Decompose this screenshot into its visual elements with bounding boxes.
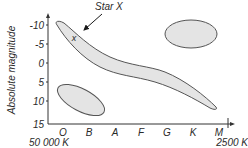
- star-x-marker: x: [71, 33, 77, 43]
- y-axis-title: Absolute magnitude: [6, 25, 17, 115]
- y-tick-label: -5: [35, 39, 44, 50]
- spectral-class-label: A: [111, 127, 119, 138]
- white-dwarfs-region: [53, 78, 109, 122]
- spectral-class-label: B: [86, 127, 93, 138]
- star-x-arrow-icon: [84, 14, 102, 30]
- y-tick-label: 10: [33, 96, 45, 107]
- spectral-class-label: F: [138, 127, 145, 138]
- y-axis-arrow-icon: [46, 13, 50, 18]
- spectral-class-label: K: [190, 127, 198, 138]
- giants-region: [165, 20, 217, 48]
- y-tick-label: 15: [33, 119, 45, 130]
- spectral-class-label: G: [163, 127, 171, 138]
- y-tick-label: -10: [30, 20, 45, 31]
- right-temperature-label: 2500 K: [215, 137, 248, 148]
- y-tick-label: 0: [38, 58, 44, 69]
- star-x-label: Star X: [95, 1, 123, 12]
- hr-diagram: -10 -5 0 5 10 15 Absolute magnitude O B …: [0, 0, 248, 148]
- y-tick-label: 5: [38, 77, 44, 88]
- left-temperature-label: 50 000 K: [29, 137, 70, 148]
- x-axis-arrow-icon: [230, 122, 235, 126]
